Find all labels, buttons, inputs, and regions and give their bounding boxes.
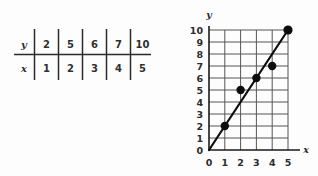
y-tick-2: 2 <box>196 121 203 132</box>
data-point <box>236 86 244 94</box>
data-point <box>252 74 260 82</box>
y-tick-10: 10 <box>190 25 204 36</box>
x-tick-2: 2 <box>237 157 244 168</box>
y-tick-9: 9 <box>196 37 203 48</box>
table-row-label-y: y <box>20 39 28 50</box>
x-tick-4: 4 <box>269 157 276 168</box>
x-tick-0: 0 <box>206 157 213 168</box>
table-cell-x-1: 1 <box>43 63 50 74</box>
worksheet-figure: y 2 5 6 7 10 x 1 2 3 4 5 <box>0 0 318 176</box>
x-tick-3: 3 <box>253 157 260 168</box>
x-tick-5: 5 <box>285 157 292 168</box>
data-point <box>268 62 276 70</box>
y-tick-6: 6 <box>196 73 203 84</box>
scatter-plot: y x 0 1 2 3 4 5 6 7 8 9 10 0 1 2 3 4 5 <box>190 9 309 168</box>
table-cell-x-4: 4 <box>115 63 122 74</box>
y-tick-8: 8 <box>196 49 203 60</box>
table-cell-x-3: 3 <box>91 63 98 74</box>
table-cell-y-1: 2 <box>43 39 50 50</box>
x-tick-labels: 0 1 2 3 4 5 <box>206 157 292 168</box>
y-axis-label: y <box>205 9 213 20</box>
table-row-label-x: x <box>20 63 28 74</box>
table-cell-x-5: 5 <box>139 63 146 74</box>
data-point <box>221 122 229 130</box>
table-cell-y-3: 6 <box>91 39 98 50</box>
table-cell-x-2: 2 <box>67 63 74 74</box>
x-tick-1: 1 <box>221 157 228 168</box>
y-tick-0: 0 <box>196 145 203 156</box>
y-tick-1: 1 <box>196 133 203 144</box>
y-tick-7: 7 <box>196 61 203 72</box>
y-tick-3: 3 <box>196 109 203 120</box>
y-tick-5: 5 <box>196 85 203 96</box>
y-tick-labels: 0 1 2 3 4 5 6 7 8 9 10 <box>190 25 204 156</box>
x-axis-label: x <box>302 144 309 155</box>
y-tick-4: 4 <box>196 97 203 108</box>
table-cell-y-5: 10 <box>136 39 150 50</box>
table-cell-y-4: 7 <box>115 39 122 50</box>
data-table: y 2 5 6 7 10 x 1 2 3 4 5 <box>14 29 151 80</box>
table-cell-y-2: 5 <box>67 39 74 50</box>
data-point <box>283 25 292 34</box>
